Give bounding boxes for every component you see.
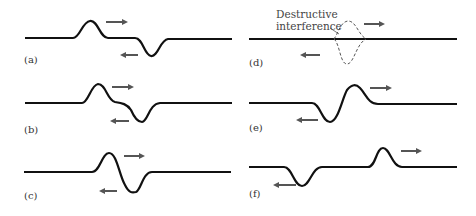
panel-a-waves bbox=[25, 21, 232, 56]
panel-label-c: (c) bbox=[24, 190, 37, 201]
panel-c-waves bbox=[24, 153, 231, 192]
panel-b-waves bbox=[25, 84, 232, 122]
panel-label-a: (a) bbox=[24, 54, 38, 65]
panel-f-waves bbox=[249, 148, 457, 186]
figure-drawing bbox=[0, 0, 476, 216]
panel-label-f: (f) bbox=[249, 188, 261, 199]
panel-label-b: (b) bbox=[24, 124, 38, 135]
panel-label-e: (e) bbox=[249, 122, 263, 133]
panel-label-d: (d) bbox=[249, 57, 263, 68]
destructive-interference-annotation: Destructive interference bbox=[276, 8, 342, 32]
panel-e-waves bbox=[249, 85, 457, 122]
annotation-line-1: Destructive bbox=[276, 8, 342, 20]
annotation-line-2: interference bbox=[276, 20, 342, 32]
